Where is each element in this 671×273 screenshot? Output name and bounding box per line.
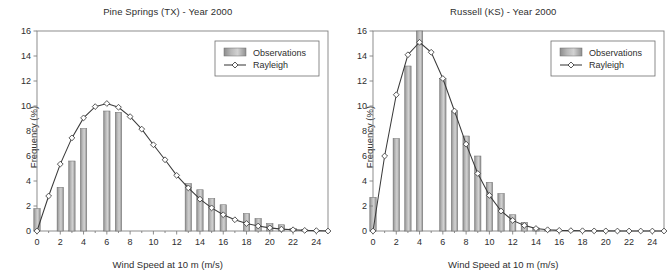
- diamond-marker: [567, 228, 573, 234]
- diamond-marker: [46, 193, 52, 199]
- diamond-marker: [69, 135, 75, 141]
- y-tick-label: 10: [21, 101, 31, 111]
- y-tick-label: 16: [21, 26, 31, 36]
- diamond-marker: [544, 227, 550, 233]
- x-tick-label: 8: [463, 237, 468, 247]
- bar-series: [369, 31, 562, 231]
- x-tick-label: 24: [311, 237, 321, 247]
- x-tick-label: 12: [172, 237, 182, 247]
- x-tick-label: 22: [288, 237, 298, 247]
- x-tick-label: 12: [507, 237, 517, 247]
- y-tick-label: 4: [26, 176, 31, 186]
- y-tick-label: 16: [356, 26, 366, 36]
- bar: [104, 111, 110, 231]
- x-tick-label: 6: [104, 237, 109, 247]
- y-tick-label: 2: [361, 201, 366, 211]
- diamond-marker: [57, 161, 63, 167]
- legend-label-observations: Observations: [253, 48, 307, 58]
- diamond-marker: [104, 101, 110, 107]
- legend: ObservationsRayleigh: [215, 41, 319, 76]
- rayleigh-markers: [34, 101, 331, 234]
- x-tick-label: 2: [58, 237, 63, 247]
- y-tick-label: 6: [26, 151, 31, 161]
- x-tick-label: 4: [417, 237, 422, 247]
- y-tick-label: 0: [26, 226, 31, 236]
- x-tick-label: 22: [624, 237, 634, 247]
- x-tick-label: 14: [530, 237, 540, 247]
- y-tick-label: 10: [356, 101, 366, 111]
- bar: [451, 111, 457, 231]
- bar: [486, 182, 492, 231]
- legend: ObservationsRayleigh: [551, 41, 655, 76]
- legend-bar-swatch: [560, 48, 582, 56]
- x-tick-label: 24: [647, 237, 657, 247]
- diamond-marker: [579, 228, 585, 234]
- legend-bar-swatch: [224, 48, 246, 56]
- diamond-marker: [661, 228, 667, 234]
- legend-label-rayleigh: Rayleigh: [253, 60, 288, 70]
- y-tick-label: 2: [26, 201, 31, 211]
- x-tick-label: 0: [370, 237, 375, 247]
- y-tick-label: 12: [356, 76, 366, 86]
- x-tick-label: 4: [81, 237, 86, 247]
- bar: [57, 187, 63, 231]
- legend-label-rayleigh: Rayleigh: [589, 60, 624, 70]
- bar: [416, 31, 422, 231]
- bar: [404, 66, 410, 231]
- x-tick-label: 14: [195, 237, 205, 247]
- diamond-marker: [393, 92, 399, 98]
- x-tick-label: 18: [242, 237, 252, 247]
- bar: [393, 139, 399, 232]
- bar: [80, 129, 86, 232]
- figure-container: Pine Springs (TX) - Year 2000 Frequency …: [0, 0, 671, 273]
- diamond-marker: [591, 228, 597, 234]
- y-tick-label: 8: [26, 126, 31, 136]
- diamond-marker: [626, 228, 632, 234]
- x-tick-label: 16: [218, 237, 228, 247]
- diamond-marker: [302, 227, 308, 233]
- y-tick-label: 6: [361, 151, 366, 161]
- diamond-marker: [381, 153, 387, 159]
- x-tick-label: 8: [128, 237, 133, 247]
- bar: [69, 161, 75, 231]
- diamond-marker: [313, 228, 319, 234]
- x-tick-label: 10: [484, 237, 494, 247]
- y-tick-label: 0: [361, 226, 366, 236]
- x-tick-label: 18: [577, 237, 587, 247]
- diamond-marker: [325, 228, 331, 234]
- x-tick-label: 2: [393, 237, 398, 247]
- diamond-marker: [290, 227, 296, 233]
- diamond-marker: [602, 228, 608, 234]
- diamond-marker: [556, 227, 562, 233]
- diamond-marker: [232, 217, 238, 223]
- x-tick-label: 10: [148, 237, 158, 247]
- legend-label-observations: Observations: [589, 48, 643, 58]
- bar: [115, 112, 121, 231]
- diamond-marker: [649, 228, 655, 234]
- x-tick-label: 0: [34, 237, 39, 247]
- x-tick-label: 20: [265, 237, 275, 247]
- y-tick-label: 8: [361, 126, 366, 136]
- diamond-marker: [614, 228, 620, 234]
- chart-panel-russell: Russell (KS) - Year 2000 Frequency (%) W…: [336, 0, 671, 273]
- x-tick-label: 16: [554, 237, 564, 247]
- y-tick-label: 12: [21, 76, 31, 86]
- plot-area: 0246810121416024681012141618202224Observ…: [0, 0, 336, 273]
- diamond-marker: [637, 228, 643, 234]
- y-tick-label: 4: [361, 176, 366, 186]
- x-tick-label: 6: [440, 237, 445, 247]
- chart-panel-pine-springs: Pine Springs (TX) - Year 2000 Frequency …: [0, 0, 336, 273]
- y-tick-label: 14: [356, 51, 366, 61]
- y-tick-label: 14: [21, 51, 31, 61]
- plot-area: 0246810121416024681012141618202224Observ…: [336, 0, 671, 273]
- bar: [439, 79, 445, 232]
- x-tick-label: 20: [600, 237, 610, 247]
- bar: [208, 199, 214, 232]
